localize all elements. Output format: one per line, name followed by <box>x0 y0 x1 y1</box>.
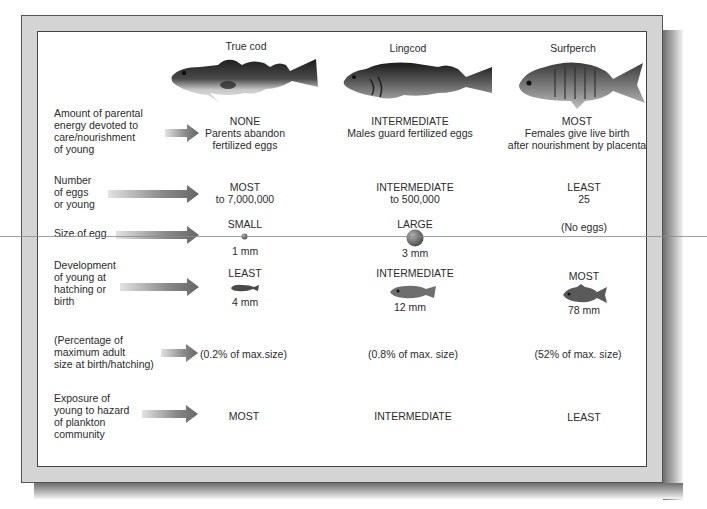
lingcod-development-value: 12 mm <box>394 301 426 313</box>
right-arrow-icon <box>116 226 199 244</box>
cod-egg-size-value: 1 mm <box>232 245 258 257</box>
cod-egg-count-value: MOSTto 7,000,000 <box>216 181 274 205</box>
surfperch-percentage-value: (52% of max. size) <box>535 348 622 360</box>
surfperch-fish-icon <box>515 55 649 113</box>
cod-development-value: 4 mm <box>232 296 258 308</box>
row-label-development: Developmentof young athatching orbirth <box>54 259 116 307</box>
lingcod-parental-energy-value: MOST INTERMEDIATEMales guard fertilized … <box>347 115 472 139</box>
row-label-parental-energy: Amount of parentalenergy devoted tocare/… <box>54 107 143 155</box>
surfperch-juvenile-icon <box>561 283 609 305</box>
cod-percentage-value: (0.2% of max.size) <box>200 348 287 360</box>
cod-parental-energy-value: NONEParents abandonfertilized eggs <box>205 115 285 151</box>
lingcod-exposure-value: INTERMEDIATE <box>374 410 451 422</box>
large-egg-icon <box>406 229 424 247</box>
right-arrow-icon <box>142 405 198 423</box>
right-arrow-icon <box>108 185 199 203</box>
cod-larva-icon <box>230 283 260 293</box>
lingcod-fish-icon <box>342 57 494 105</box>
surfperch-development-label: MOST <box>569 270 599 282</box>
row-label-percentage-max-size: (Percentage ofmaximum adultsize at birth… <box>54 334 154 370</box>
species-header-lingcod: Lingcod <box>390 42 427 54</box>
cod-exposure-value: MOST <box>229 410 259 422</box>
surfperch-parental-energy-value: MOSTFemales give live birthafter nourish… <box>508 115 646 151</box>
lingcod-larva-icon <box>388 283 438 301</box>
true-cod-fish-icon <box>170 55 322 105</box>
row-label-number-of-eggs: Numberof eggsor young <box>54 174 95 210</box>
surfperch-egg-count-value: LEAST25 <box>567 181 600 205</box>
lingcod-egg-count-value: INTERMEDIATEto 500,000 <box>376 181 453 205</box>
right-arrow-icon <box>165 124 199 142</box>
species-header-surfperch: Surfperch <box>550 42 596 54</box>
cod-development-label: LEAST <box>228 267 261 279</box>
lingcod-development-label: INTERMEDIATE <box>376 267 453 279</box>
surfperch-exposure-value: LEAST <box>567 411 600 423</box>
right-arrow-icon <box>161 344 198 362</box>
lingcod-percentage-value: (0.8% of max. size) <box>368 348 458 360</box>
frame-shadow-bottom <box>34 483 683 499</box>
surfperch-development-value: 78 mm <box>568 304 600 316</box>
lingcod-egg-size-value: 3 mm <box>402 247 428 259</box>
frame-shadow-right <box>663 30 683 500</box>
right-arrow-icon <box>120 278 199 296</box>
row-label-size-of-egg: Size of egg <box>54 227 107 239</box>
row-label-plankton-exposure: Exposure ofyoung to hazardof planktoncom… <box>54 392 129 440</box>
scan-artifact-line <box>0 236 707 237</box>
cod-egg-size-label: SMALL <box>228 218 262 230</box>
surfperch-egg-size-value: (No eggs) <box>561 221 607 233</box>
species-header-true-cod: True cod <box>225 40 266 52</box>
